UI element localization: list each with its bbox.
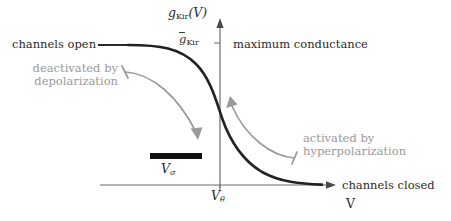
- vsigma-symbol: V: [161, 161, 170, 176]
- y-axis-label-arg: (V): [188, 5, 207, 20]
- vtheta-label: Vθ: [211, 189, 225, 205]
- activated-line-1: activated by: [303, 132, 406, 145]
- channels-open-label: channels open: [12, 38, 96, 51]
- deactivated-line-2: depolarization: [14, 75, 118, 88]
- channels-closed-label: channels closed: [342, 179, 435, 192]
- vtheta-sub: θ: [220, 195, 225, 204]
- x-axis-label: V: [346, 197, 355, 211]
- vsigma-scale-bar: [150, 153, 202, 159]
- vsigma-sub: σ: [170, 168, 175, 177]
- activated-arrow: [226, 96, 297, 164]
- kir-conductance-figure: gKir(V) gKir channels open maximum condu…: [0, 0, 451, 221]
- gbar-kir-sub: Kir: [186, 38, 198, 47]
- gbar-kir-symbol: g: [179, 33, 186, 46]
- activated-line-2: hyperpolarization: [303, 145, 406, 158]
- maximum-conductance-label: maximum conductance: [233, 38, 368, 51]
- y-axis-label-sub: Kir: [176, 12, 188, 21]
- gbar-kir-label: gKir: [179, 33, 199, 48]
- vtheta-symbol: V: [211, 188, 220, 203]
- activated-annotation: activated by hyperpolarization: [303, 132, 406, 158]
- deactivated-arrow: [122, 66, 202, 140]
- deactivated-annotation: deactivated by depolarization: [14, 62, 118, 88]
- y-axis-label: gKir(V): [168, 6, 207, 22]
- vsigma-label: Vσ: [161, 162, 176, 178]
- y-axis-label-g: g: [168, 5, 176, 20]
- deactivated-line-1: deactivated by: [14, 62, 118, 75]
